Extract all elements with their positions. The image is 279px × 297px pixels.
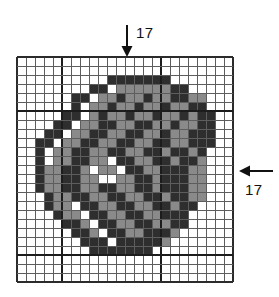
grid-line-horizontal <box>17 165 233 166</box>
grid-line-vertical <box>206 57 207 282</box>
grid-line-vertical <box>152 57 153 282</box>
grid-line-vertical <box>35 57 36 282</box>
right-dimension-label: 17 <box>245 182 263 197</box>
grid-line-vertical <box>134 57 135 282</box>
grid-line-vertical <box>89 57 90 282</box>
grid-line-horizontal <box>17 102 233 103</box>
grid-line-vertical <box>71 57 72 282</box>
grid-line-vertical <box>26 57 27 282</box>
grid-line-vertical <box>80 57 81 282</box>
grid-line-horizontal <box>17 192 233 193</box>
grid-line-horizontal <box>17 129 233 130</box>
grid-line-vertical <box>125 57 126 282</box>
grid-line-horizontal <box>17 110 233 112</box>
grid-line-horizontal <box>17 66 233 67</box>
grid-line-horizontal <box>17 246 233 247</box>
grid-line-horizontal <box>17 147 233 148</box>
grid-line-horizontal <box>17 174 233 175</box>
grid-line-vertical <box>170 57 171 282</box>
grid-line-horizontal <box>17 120 233 121</box>
grid-line-vertical <box>116 57 117 282</box>
grid-line-vertical <box>197 57 198 282</box>
top-dimension-arrow <box>118 24 138 58</box>
grid-line-vertical <box>53 57 54 282</box>
grid-line-vertical <box>16 57 18 282</box>
grid-line-vertical <box>44 57 45 282</box>
grid-line-vertical <box>61 57 63 282</box>
grid-line-vertical <box>160 57 162 282</box>
grid-line-horizontal <box>17 219 233 220</box>
figure-root: 17 17 <box>0 0 279 297</box>
grid-line-vertical <box>107 57 108 282</box>
grid-line-horizontal <box>17 201 233 202</box>
grid-line-vertical <box>179 57 180 282</box>
grid-line-horizontal <box>17 183 233 184</box>
grid-line-horizontal <box>17 75 233 76</box>
pixel-grid-container <box>17 57 233 282</box>
grid-line-vertical <box>215 57 216 282</box>
grid-line-horizontal <box>17 138 233 139</box>
right-dimension-arrow <box>236 162 274 182</box>
grid-line-vertical <box>188 57 189 282</box>
grid-line-vertical <box>232 57 234 282</box>
grid-line-horizontal <box>17 273 233 274</box>
grid-line-horizontal <box>17 228 233 229</box>
grid-line-horizontal <box>17 210 233 211</box>
grid-line-horizontal <box>17 93 233 94</box>
grid-line-horizontal <box>17 84 233 85</box>
pixel-grid <box>17 57 233 282</box>
grid-line-horizontal <box>17 237 233 238</box>
grid-line-vertical <box>143 57 144 282</box>
grid-line-horizontal <box>17 281 233 283</box>
grid-line-horizontal <box>17 254 233 256</box>
grid-line-vertical <box>224 57 225 282</box>
top-dimension-label: 17 <box>136 25 154 40</box>
grid-line-vertical <box>98 57 99 282</box>
grid-line-horizontal <box>17 156 233 157</box>
grid-line-horizontal <box>17 264 233 265</box>
